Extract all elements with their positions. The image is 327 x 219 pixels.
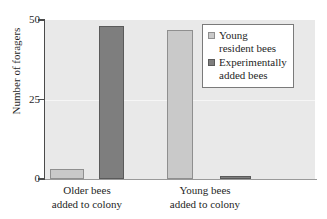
legend-swatch-icon-light	[208, 32, 215, 39]
legend-swatch-icon-dark	[208, 59, 215, 66]
y-tick-mark-25	[38, 99, 45, 100]
y-tick-label-0: 0	[18, 173, 40, 184]
legend-item-young-resident-bees: Young resident bees	[208, 29, 287, 55]
x-axis-baseline	[45, 179, 317, 180]
legend-label-young-resident-bees: Young resident bees	[219, 29, 276, 55]
y-tick-label-25: 25	[18, 94, 40, 105]
y-tick-mark-50	[38, 19, 45, 20]
x-category-label-young-bees: Young bees added to colony	[150, 184, 260, 211]
bar-young-young-resident	[167, 30, 193, 179]
y-tick-mark-0	[38, 178, 45, 179]
x-category-label-older-bees: Older bees added to colony	[32, 184, 142, 211]
bar-older-added	[99, 26, 124, 179]
bar-chart-figure: Number of foragers 50 25 0 Older bees ad…	[0, 0, 327, 219]
legend-label-experimentally-added-bees: Experimentally added bees	[219, 56, 287, 82]
y-tick-label-50: 50	[18, 14, 40, 25]
legend-item-experimentally-added-bees: Experimentally added bees	[208, 56, 287, 82]
legend: Young resident bees Experimentally added…	[202, 24, 294, 88]
